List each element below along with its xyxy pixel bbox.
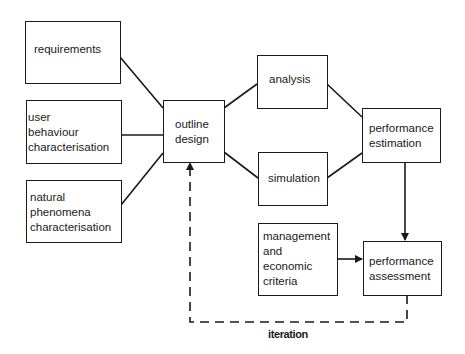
- analysis-label: analysis: [269, 72, 327, 87]
- user-behaviour-box: user behaviour characterisation: [26, 100, 122, 164]
- natural-phenomena-label-3: characterisation: [30, 220, 121, 235]
- edge-natural-outline: [121, 153, 163, 205]
- outline-design-label-2: design: [175, 132, 224, 147]
- natural-phenomena-label-1: natural: [30, 190, 121, 205]
- performance-estimation-label-2: estimation: [369, 136, 440, 151]
- edge-outline-analysis: [224, 84, 257, 108]
- management-label-4: criteria: [263, 274, 337, 289]
- user-behaviour-label-1: user: [28, 110, 121, 125]
- management-label-1: management: [263, 229, 337, 244]
- management-label-2: and: [263, 244, 337, 259]
- performance-estimation-label-1: performance: [369, 121, 440, 136]
- edge-outline-simulation: [224, 152, 258, 178]
- user-behaviour-label-2: behaviour: [28, 125, 121, 140]
- performance-assessment-label-2: assessment: [369, 269, 441, 284]
- management-criteria-box: management and economic criteria: [258, 223, 338, 296]
- natural-phenomena-box: natural phenomena characterisation: [26, 180, 122, 243]
- simulation-label: simulation: [268, 171, 327, 186]
- requirements-box: requirements: [25, 21, 121, 84]
- simulation-box: simulation: [258, 152, 328, 206]
- performance-estimation-box: performance estimation: [362, 108, 441, 163]
- management-label-3: economic: [263, 259, 337, 274]
- natural-phenomena-label-2: phenomena: [30, 205, 121, 220]
- outline-design-box: outline design: [163, 100, 225, 163]
- analysis-box: analysis: [257, 55, 328, 109]
- edge-analysis-estimation: [327, 84, 362, 117]
- performance-assessment-box: performance assessment: [363, 241, 442, 296]
- iteration-label: iteration: [268, 328, 308, 340]
- edge-requirements-outline: [120, 57, 163, 108]
- outline-design-label-1: outline: [175, 117, 224, 132]
- performance-assessment-label-1: performance: [369, 254, 441, 269]
- user-behaviour-label-3: characterisation: [28, 140, 121, 155]
- edge-simulation-estimation: [327, 153, 362, 178]
- requirements-label: requirements: [34, 42, 120, 57]
